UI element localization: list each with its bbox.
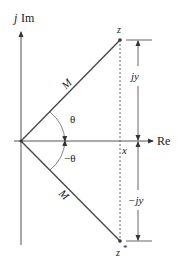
conjugate-superscript: * [123,243,128,253]
lower-magnitude-label: M [56,186,72,202]
jy-dimension-label: jy [129,70,139,82]
minus-jy-dimension-label: −jy [128,194,143,206]
angle-theta-label: θ [70,113,75,125]
point-z-conjugate-label: z [115,247,120,258]
complex-plane-diagram: j Im Re z z * M M θ −θ x jy −jy [0,0,179,268]
origin-point [20,140,23,143]
point-z-label: z [116,24,121,35]
vector-z [21,40,120,141]
angle-arc-theta [50,112,65,141]
imag-axis-j-label: j [12,11,18,25]
angle-arc-minus-theta [50,141,65,170]
real-axis-label: Re [157,134,170,148]
x-projection-label: x [121,144,127,156]
angle-minus-theta-label: −θ [64,152,75,164]
imag-axis-label: Im [21,11,35,25]
